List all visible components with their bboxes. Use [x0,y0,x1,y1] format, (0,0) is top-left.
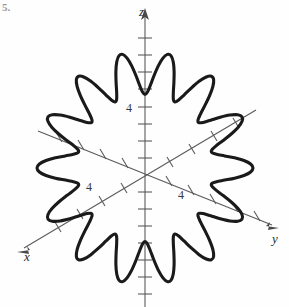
tick-label-z-4: 4 [126,102,132,114]
axis-label-y: y [272,232,278,245]
coordinate-plot [0,0,289,307]
axis-label-z: z [139,5,144,18]
tick-label-y-4: 4 [178,189,184,201]
tick-label-x-4: 4 [86,181,92,193]
axis-label-x: x [24,250,30,263]
graph-figure: 5. [0,0,289,307]
